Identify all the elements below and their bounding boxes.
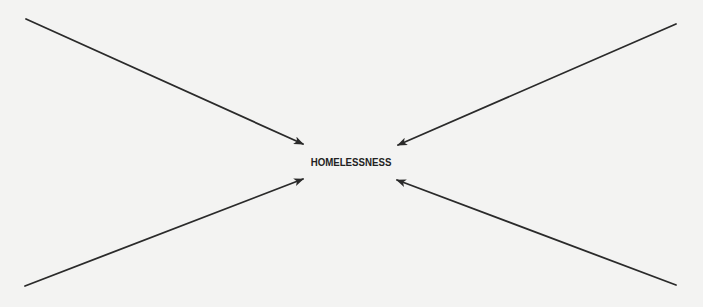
arrow-bottom-right-icon: [397, 180, 676, 285]
arrow-top-right-icon: [398, 24, 676, 145]
arrow-top-left-icon: [26, 19, 303, 144]
diagram-canvas: HOMELESSNESS: [0, 0, 703, 307]
arrows-layer: [0, 0, 703, 307]
arrow-bottom-left-icon: [25, 179, 303, 286]
center-label-homelessness: HOMELESSNESS: [311, 156, 392, 168]
